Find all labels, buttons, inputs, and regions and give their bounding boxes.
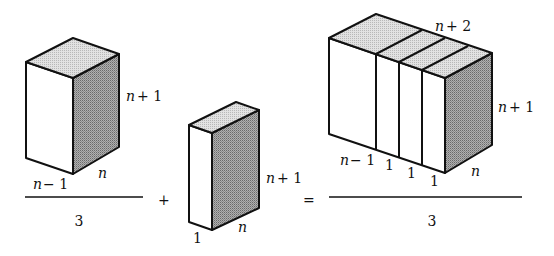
- right-block: [329, 14, 492, 173]
- left-width-label: n− 1: [33, 176, 68, 192]
- right-width-label-1: 1: [385, 157, 394, 173]
- right-height-label: n+ 1: [498, 99, 534, 115]
- right-denominator: 3: [428, 213, 437, 229]
- left-height-label: n+ 1: [126, 88, 162, 104]
- plus-sign: +: [158, 192, 170, 208]
- middle-depth-label: n: [238, 219, 247, 235]
- left-box-front: [26, 62, 73, 174]
- left-denominator: 3: [75, 213, 84, 229]
- right-top-label: n+ 2: [435, 18, 471, 34]
- middle-height-label: n+ 1: [266, 170, 302, 186]
- left-box: [26, 38, 119, 174]
- sum-of-products-diagram: n+ 1 n n− 1 3 + n+ 1 n 1 = n+ 2 n+ 1 n n…: [0, 0, 554, 256]
- middle-slab-front: [189, 125, 212, 230]
- middle-slab: [189, 102, 259, 230]
- right-width-label-0: n− 1: [340, 152, 375, 168]
- middle-width-label: 1: [193, 230, 202, 246]
- equals-sign: =: [303, 192, 315, 208]
- left-depth-label: n: [98, 165, 107, 181]
- right-width-label-3: 1: [430, 173, 439, 189]
- right-width-label-2: 1: [407, 165, 416, 181]
- right-depth-label: n: [471, 163, 480, 179]
